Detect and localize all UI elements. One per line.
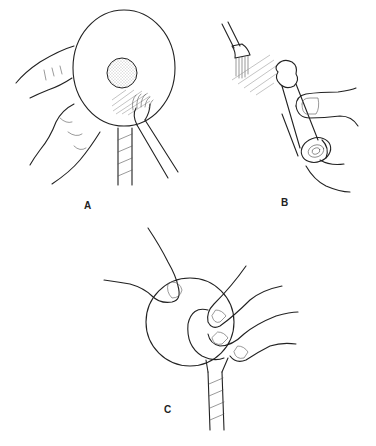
hand-icon (104, 228, 182, 302)
spiral-cord-icon (118, 128, 132, 185)
illustration-figure: A B C (0, 0, 376, 446)
hand-icon (208, 266, 298, 361)
panel-label-b: B (281, 197, 288, 208)
figure-caption (0, 438, 376, 446)
hatch-area-icon (232, 55, 276, 95)
panel-label-c: C (164, 404, 171, 415)
line-art (0, 0, 376, 446)
panel-c-art (104, 228, 298, 430)
panel-b-art (222, 22, 358, 192)
hatch-area-icon (112, 90, 150, 115)
disc-icon (146, 278, 234, 366)
hand-icon (16, 46, 74, 98)
small-disc-icon (188, 309, 224, 359)
panel-label-a: A (84, 200, 91, 211)
brush-icon (132, 94, 178, 178)
brush-icon (222, 22, 250, 78)
spiral-cord-icon (206, 358, 228, 430)
stippled-center-icon (107, 58, 137, 88)
panel-a-art (16, 10, 178, 185)
